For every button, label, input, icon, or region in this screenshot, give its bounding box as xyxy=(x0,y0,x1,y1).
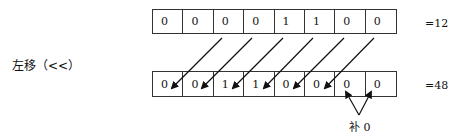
fill-zero-annotation: 补 0 xyxy=(349,118,371,134)
shift-arrows-icon xyxy=(0,0,459,140)
